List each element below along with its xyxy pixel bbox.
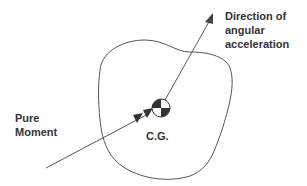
direction-label-line2: angular [225, 24, 265, 36]
pure-moment-vector [46, 114, 148, 168]
pure-moment-label-line2: Moment [15, 126, 58, 138]
pure-moment-arrowhead-2 [143, 108, 153, 118]
cg-label: C.G. [146, 130, 169, 142]
pure-moment-label-line1: Pure [15, 112, 39, 124]
direction-label-line3: acceleration [225, 38, 289, 50]
angular-acceleration-arrowhead [205, 13, 213, 24]
angular-acceleration-vector [165, 20, 210, 100]
direction-label-line1: Direction of [225, 10, 286, 22]
cg-symbol [152, 99, 170, 117]
angular-acceleration-diagram: Direction of angular acceleration Pure M… [0, 0, 307, 186]
